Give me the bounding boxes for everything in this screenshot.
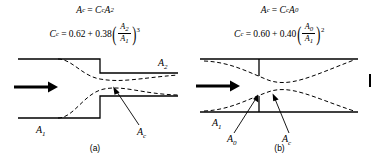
page-edge-mark (369, 74, 371, 87)
panel-a-flow-arrow (14, 82, 58, 93)
panel-b-a0-leader (234, 95, 258, 133)
panel-b-label-A1: A1 (211, 117, 222, 131)
panel-a-ac-leader (113, 86, 139, 125)
panel-b-diagram: A1 A0 Ac (186, 0, 373, 155)
panel-b-flow-arrow (196, 81, 240, 92)
panel-a-caption: (a) (0, 143, 190, 153)
panel-a-sudden-expansion: Ac = CcA2 Cc = 0.62 + 0.38 ( A2 A1 (0, 0, 190, 155)
panel-a-label-Ac: Ac (136, 126, 147, 140)
figure-root: Ac = CcA2 Cc = 0.62 + 0.38 ( A2 A1 (0, 0, 373, 155)
panel-a-diagram: A2 A1 Ac (0, 0, 190, 155)
panel-a-upper-wall (18, 59, 178, 73)
panel-b-streamline-upper (204, 60, 354, 83)
panel-b-ac-leader (273, 93, 289, 133)
panel-b-orifice-plate: Ac = CcA0 Cc = 0.60 + 0.40 ( A0 A1 (186, 0, 373, 155)
panel-a-lower-wall (18, 96, 178, 118)
panel-a-label-A2: A2 (157, 57, 168, 71)
panel-b-caption: (b) (186, 143, 373, 153)
panel-a-label-A1: A1 (35, 124, 46, 138)
